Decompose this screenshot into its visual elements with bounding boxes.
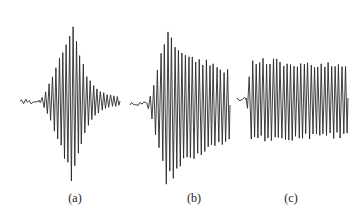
waveform-figure: [0, 0, 364, 216]
panel-label-b: (b): [187, 191, 201, 206]
panel-label-c: (c): [284, 191, 297, 206]
waveform-b: [130, 32, 230, 184]
waveform-a: [20, 27, 120, 181]
waveform-c: [237, 58, 348, 141]
panel-label-a: (a): [68, 191, 81, 206]
